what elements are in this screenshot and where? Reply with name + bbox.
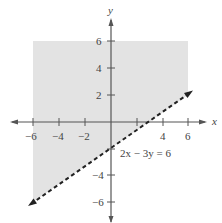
x-tick-label-m2: −2 bbox=[78, 131, 90, 142]
x-axis-arrow-left bbox=[10, 120, 18, 125]
x-axis-arrow-right bbox=[199, 120, 207, 125]
y-tick-label-2: 2 bbox=[96, 90, 102, 101]
y-tick-label-4: 4 bbox=[96, 63, 102, 74]
y-axis-arrow-down bbox=[109, 216, 114, 223]
x-tick-label-m4: −4 bbox=[52, 131, 64, 142]
x-tick-label-6: 6 bbox=[185, 131, 191, 142]
equation-annotation: 2x − 3y = 6 bbox=[120, 148, 171, 159]
y-axis-label: y bbox=[108, 5, 113, 16]
x-axis-label: x bbox=[212, 116, 217, 127]
graph-canvas bbox=[0, 0, 222, 223]
x-tick-label-m6: −6 bbox=[25, 131, 37, 142]
y-tick-label-6: 6 bbox=[96, 36, 102, 47]
y-tick-label-m4: −4 bbox=[92, 170, 104, 181]
y-axis-arrow-up bbox=[109, 18, 114, 26]
y-tick-label-m6: −6 bbox=[92, 197, 104, 208]
x-tick-label-4: 4 bbox=[160, 131, 166, 142]
